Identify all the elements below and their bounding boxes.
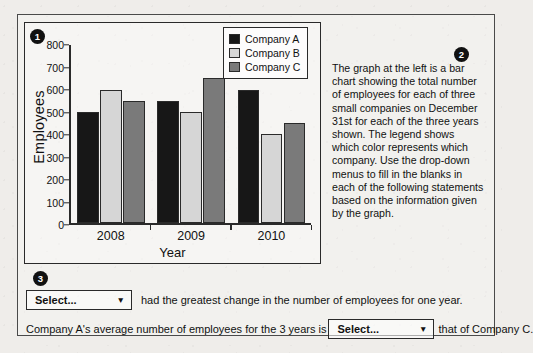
y-tick-label: 300 (33, 152, 64, 163)
x-tick-label: 2010 (258, 229, 286, 243)
bar-company-a-2008 (77, 112, 99, 224)
chevron-down-icon: ▼ (419, 325, 427, 334)
question-1-row: Select... ▼ had the greatest change in t… (26, 289, 476, 311)
bar-company-c-2008 (123, 101, 145, 224)
x-axis-line (69, 223, 311, 225)
legend-label: Company B (245, 47, 300, 59)
y-tick-label: 500 (33, 107, 64, 118)
bar-company-b-2010 (261, 134, 283, 223)
question-2-row: Company A's average number of employees … (26, 318, 486, 340)
bar-company-c-2010 (284, 123, 306, 223)
x-axis-title: Year (25, 245, 320, 260)
legend-label: Company C (245, 61, 300, 73)
question-1-dropdown-value: Select... (35, 294, 77, 306)
x-tick-label: 2009 (177, 229, 205, 243)
question-2-text-after: that of Company C. (438, 323, 533, 335)
x-tick-label: 2008 (97, 229, 125, 243)
question-2-dropdown-value: Select... (337, 323, 379, 335)
y-tick-label: 0 (33, 220, 64, 231)
legend-item: Company A (229, 32, 300, 46)
y-tick-label: 400 (33, 130, 64, 141)
bar-company-a-2009 (157, 101, 179, 224)
instructions-paragraph: The graph at the left is a bar chart sho… (332, 62, 484, 220)
legend-item: Company C (229, 60, 300, 74)
y-tick-label: 100 (33, 197, 64, 208)
y-tick-label: 700 (33, 62, 64, 73)
bar-chart-panel: Employees 0100200300400500600700800 2008… (24, 22, 321, 264)
chevron-down-icon: ▼ (117, 296, 125, 305)
bar-company-b-2008 (100, 90, 122, 224)
legend-swatch-icon (229, 48, 240, 58)
legend-item: Company B (229, 46, 300, 60)
x-tick-mark (150, 225, 151, 230)
y-tick-label: 200 (33, 175, 64, 186)
legend-swatch-icon (229, 34, 240, 44)
bar-company-c-2009 (203, 78, 225, 223)
question-1-text: had the greatest change in the number of… (141, 294, 463, 306)
step-badge-1: 1 (30, 29, 45, 44)
y-axis-tick-labels: 0100200300400500600700800 (33, 45, 64, 225)
legend-swatch-icon (229, 62, 240, 72)
question-2-dropdown[interactable]: Select... ▼ (328, 319, 434, 339)
y-tick-label: 600 (33, 85, 64, 96)
bar-company-a-2010 (238, 90, 260, 224)
legend-label: Company A (245, 33, 299, 45)
question-2-text-before: Company A's average number of employees … (26, 323, 326, 335)
x-tick-mark (311, 225, 312, 230)
chart-legend: Company ACompany BCompany C (223, 27, 308, 79)
step-badge-2: 2 (454, 47, 469, 62)
bar-company-b-2009 (180, 112, 202, 224)
x-tick-mark (230, 225, 231, 230)
question-1-dropdown[interactable]: Select... ▼ (26, 290, 132, 310)
step-badge-3: 3 (33, 271, 48, 286)
